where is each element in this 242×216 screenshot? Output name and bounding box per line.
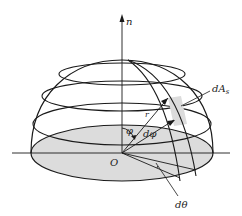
azimuth-increment-label: dθ <box>175 199 187 210</box>
area-leader <box>181 91 210 106</box>
area-label: dAs <box>212 83 230 96</box>
origin-label: O <box>110 157 118 168</box>
radius-label: r <box>145 110 150 119</box>
hemisphere-diagram: n dAs r φ dφ O dθ <box>0 0 242 216</box>
polar-angle-label: φ <box>126 125 133 136</box>
normal-arrowhead <box>120 14 125 22</box>
radius-arrowhead <box>161 98 168 105</box>
polar-increment-label: dφ <box>143 128 156 139</box>
normal-label: n <box>126 16 132 27</box>
